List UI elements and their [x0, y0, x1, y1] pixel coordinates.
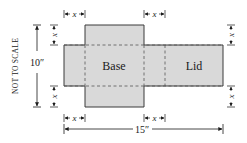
- top-flap: [85, 25, 144, 45]
- base-label: Base: [102, 59, 125, 73]
- lid-label: Lid: [186, 59, 203, 73]
- diagram-canvas: Base Lid NOT TO SCALE 10″ 15″ x: [0, 0, 247, 143]
- x-label-left-top: x: [49, 33, 59, 38]
- box-net-diagram: Base Lid NOT TO SCALE 10″ 15″ x: [0, 0, 247, 143]
- x-label-right-top: x: [226, 33, 236, 38]
- x-label-left-bottom: x: [49, 95, 59, 100]
- not-to-scale-note: NOT TO SCALE: [11, 38, 20, 94]
- box-net: Base Lid: [64, 25, 223, 107]
- x-label-right-bottom: x: [226, 95, 236, 100]
- x-label-bottom-left: x: [72, 113, 77, 123]
- x-label-bottom-right: x: [152, 113, 157, 123]
- bottom-flap: [85, 86, 144, 107]
- x-label-top-right: x: [152, 9, 157, 19]
- width-label: 15″: [135, 124, 149, 135]
- height-label: 10″: [30, 57, 44, 68]
- x-label-top-left: x: [72, 9, 77, 19]
